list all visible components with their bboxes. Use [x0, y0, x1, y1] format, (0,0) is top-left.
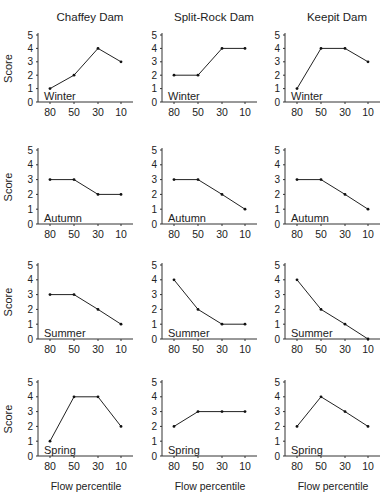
data-point	[296, 178, 299, 181]
x-tick-label: 50	[315, 228, 327, 240]
panel-split-rock-damautumn: 01234580503010Autumn	[151, 145, 257, 241]
data-point	[244, 410, 247, 413]
x-tick-label: 10	[239, 106, 251, 118]
data-point	[344, 193, 347, 196]
x-tick-label: 50	[68, 228, 80, 240]
y-tick-label: 5	[151, 145, 157, 156]
y-tick-label: 1	[27, 83, 33, 94]
panel-chaffey-damwinter: 01234580503010WinterScore	[2, 30, 133, 119]
y-tick-label: 2	[151, 189, 157, 200]
y-tick-label: 4	[27, 43, 33, 54]
y-tick-label: 5	[151, 260, 157, 271]
x-tick-label: 30	[216, 228, 228, 240]
data-point	[344, 323, 347, 326]
score-line	[50, 48, 121, 88]
x-tick-label: 30	[92, 343, 104, 355]
data-point	[221, 323, 224, 326]
x-tick-label: 30	[216, 460, 228, 472]
data-point	[367, 208, 370, 211]
column-title: Split-Rock Dam	[174, 11, 254, 23]
y-tick-label: 3	[151, 174, 157, 185]
x-tick-label: 10	[115, 228, 127, 240]
data-point	[221, 47, 224, 50]
panel-keepit-damsummer: 01234580503010Summer	[274, 260, 380, 356]
y-tick-label: 1	[27, 204, 33, 215]
x-tick-label: 50	[315, 343, 327, 355]
x-tick-label: 80	[44, 106, 56, 118]
data-point	[97, 47, 100, 50]
y-tick-label: 0	[27, 334, 33, 345]
y-tick-label: 2	[27, 70, 33, 81]
y-tick-label: 0	[274, 451, 280, 462]
data-point	[49, 440, 52, 443]
y-tick-label: 4	[27, 391, 33, 402]
x-tick-label: 30	[339, 106, 351, 118]
y-tick-label: 2	[151, 304, 157, 315]
x-tick-label: 10	[115, 460, 127, 472]
season-label: Winter	[168, 90, 200, 102]
y-tick-label: 4	[151, 43, 157, 54]
y-tick-label: 0	[27, 97, 33, 108]
x-axis-title: Flow percentile	[175, 480, 246, 492]
x-tick-label: 10	[362, 460, 374, 472]
x-tick-label: 10	[362, 228, 374, 240]
y-tick-label: 3	[27, 406, 33, 417]
season-label: Autumn	[291, 212, 329, 224]
x-tick-label: 30	[92, 460, 104, 472]
x-tick-label: 30	[216, 106, 228, 118]
y-tick-label: 1	[274, 319, 280, 330]
y-tick-label: 4	[274, 391, 280, 402]
y-tick-label: 5	[274, 377, 280, 388]
data-point	[120, 425, 123, 428]
season-label: Spring	[291, 444, 323, 456]
x-tick-label: 30	[339, 343, 351, 355]
score-line	[297, 48, 368, 88]
y-tick-label: 4	[274, 43, 280, 54]
season-label: Spring	[44, 444, 76, 456]
x-tick-label: 50	[68, 460, 80, 472]
data-point	[173, 278, 176, 281]
x-tick-label: 80	[291, 343, 303, 355]
column-title: Chaffey Dam	[57, 11, 124, 23]
y-tick-label: 0	[151, 97, 157, 108]
x-tick-label: 30	[339, 228, 351, 240]
panel-chaffey-damautumn: 01234580503010AutumnScore	[2, 145, 133, 241]
y-tick-label: 3	[27, 289, 33, 300]
panel-keepit-damspring: 01234580503010SpringFlow percentile	[274, 377, 380, 493]
x-tick-label: 10	[362, 343, 374, 355]
data-point	[296, 278, 299, 281]
score-line	[50, 295, 121, 325]
score-line	[50, 397, 121, 441]
x-tick-label: 10	[362, 106, 374, 118]
x-tick-label: 30	[92, 106, 104, 118]
data-point	[97, 193, 100, 196]
x-tick-label: 80	[44, 460, 56, 472]
score-line	[174, 280, 245, 324]
y-tick-label: 2	[274, 70, 280, 81]
data-point	[244, 323, 247, 326]
y-tick-label: 3	[274, 56, 280, 67]
y-tick-label: 1	[27, 436, 33, 447]
data-point	[97, 308, 100, 311]
y-tick-label: 3	[274, 406, 280, 417]
data-point	[197, 178, 200, 181]
x-tick-label: 80	[168, 343, 180, 355]
y-tick-label: 5	[27, 30, 33, 41]
data-point	[197, 74, 200, 77]
data-point	[173, 178, 176, 181]
x-tick-label: 80	[291, 460, 303, 472]
x-tick-label: 50	[68, 343, 80, 355]
y-tick-label: 2	[274, 189, 280, 200]
data-point	[120, 323, 123, 326]
y-tick-label: 1	[274, 83, 280, 94]
y-tick-label: 4	[27, 159, 33, 170]
y-tick-label: 3	[274, 174, 280, 185]
panel-keepit-damautumn: 01234580503010Autumn	[274, 145, 380, 241]
x-tick-label: 80	[291, 106, 303, 118]
x-tick-label: 80	[44, 343, 56, 355]
score-line	[174, 180, 245, 210]
y-tick-label: 2	[27, 189, 33, 200]
x-tick-label: 30	[339, 460, 351, 472]
y-tick-label: 2	[151, 421, 157, 432]
y-axis-title: Score	[2, 173, 14, 202]
